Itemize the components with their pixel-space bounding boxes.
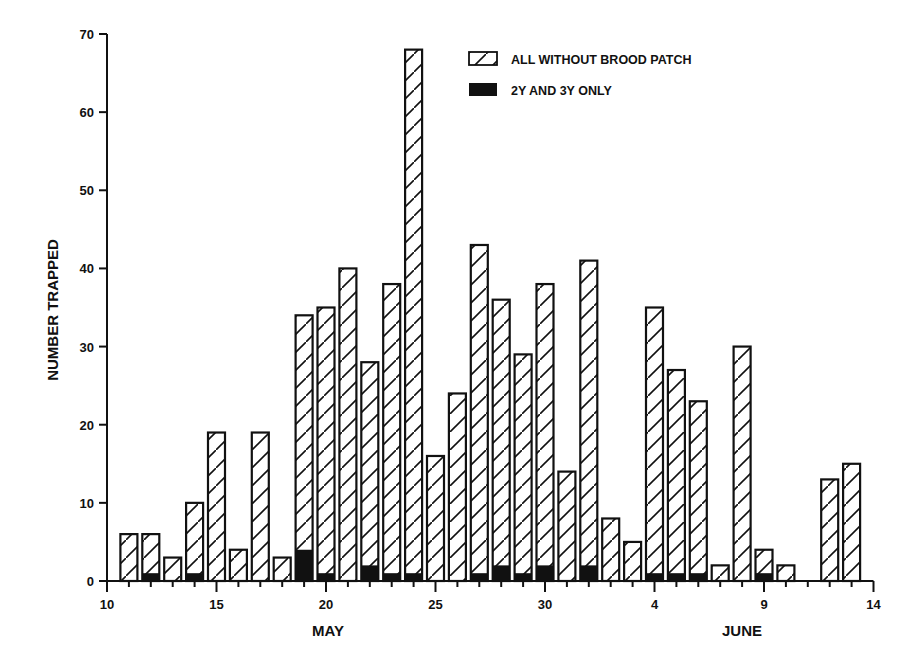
x-group-label-june: JUNE <box>722 622 762 639</box>
bar <box>668 370 685 581</box>
bar-all-without-brood-patch <box>580 261 597 581</box>
bar-all-without-brood-patch <box>120 534 137 581</box>
bar-all-without-brood-patch <box>602 518 619 581</box>
bar <box>120 534 137 581</box>
bar <box>756 550 773 581</box>
y-axis: 010203040506070 <box>80 27 107 589</box>
x-tick-label: 15 <box>209 597 223 612</box>
legend-label: 2Y AND 3Y ONLY <box>511 84 612 98</box>
bar <box>339 268 356 581</box>
bar <box>449 393 466 581</box>
y-tick-label: 0 <box>87 574 94 589</box>
bar-all-without-brood-patch <box>537 284 554 581</box>
bar <box>383 284 400 581</box>
bar-2y-3y-only <box>668 573 685 581</box>
bar-all-without-brood-patch <box>515 354 532 581</box>
bar-chart: 010203040506070 10152025304914 NUMBER TR… <box>0 0 910 669</box>
bar-all-without-brood-patch <box>624 542 641 581</box>
bars-group <box>120 50 860 581</box>
bar <box>405 50 422 581</box>
bar <box>274 558 291 581</box>
bar-2y-3y-only <box>493 565 510 581</box>
bar <box>252 433 269 581</box>
bar-all-without-brood-patch <box>712 565 729 581</box>
y-tick-label: 30 <box>80 340 94 355</box>
y-tick-label: 70 <box>80 27 94 42</box>
bar-2y-3y-only <box>383 573 400 581</box>
bar-all-without-brood-patch <box>777 565 794 581</box>
bar <box>208 433 225 581</box>
y-axis-title: NUMBER TRAPPED <box>44 239 61 381</box>
bar-2y-3y-only <box>646 573 663 581</box>
bar-all-without-brood-patch <box>339 268 356 581</box>
x-tick-label: 4 <box>651 597 659 612</box>
bar <box>690 401 707 581</box>
y-tick-label: 10 <box>80 496 94 511</box>
bar-all-without-brood-patch <box>296 315 313 581</box>
bar <box>318 308 335 582</box>
bar <box>427 456 444 581</box>
bar <box>296 315 313 581</box>
bar <box>230 550 247 581</box>
bar-all-without-brood-patch <box>252 433 269 581</box>
y-tick-label: 50 <box>80 183 94 198</box>
bar-all-without-brood-patch <box>668 370 685 581</box>
legend: ALL WITHOUT BROOD PATCH 2Y AND 3Y ONLY <box>469 52 692 98</box>
bar <box>515 354 532 581</box>
bar <box>164 558 181 581</box>
x-tick-label: 10 <box>100 597 114 612</box>
bar-all-without-brood-patch <box>405 50 422 581</box>
bar-2y-3y-only <box>296 550 313 581</box>
bar-2y-3y-only <box>471 573 488 581</box>
bar-2y-3y-only <box>318 573 335 581</box>
bar-all-without-brood-patch <box>164 558 181 581</box>
bar-2y-3y-only <box>142 573 159 581</box>
x-tick-label: 30 <box>538 597 552 612</box>
legend-item-2y-and-3y-only: 2Y AND 3Y ONLY <box>469 83 612 98</box>
y-tick-label: 20 <box>80 418 94 433</box>
bar-all-without-brood-patch <box>274 558 291 581</box>
bar-2y-3y-only <box>405 573 422 581</box>
bar-all-without-brood-patch <box>646 308 663 582</box>
bar-all-without-brood-patch <box>361 362 378 581</box>
bar-all-without-brood-patch <box>843 464 860 581</box>
bar <box>712 565 729 581</box>
bar-2y-3y-only <box>186 573 203 581</box>
x-tick-label: 20 <box>319 597 333 612</box>
bar-all-without-brood-patch <box>471 245 488 581</box>
bar <box>142 534 159 581</box>
bar-all-without-brood-patch <box>383 284 400 581</box>
x-group-label-may: MAY <box>312 622 344 639</box>
bar-2y-3y-only <box>580 565 597 581</box>
bar <box>580 261 597 581</box>
bar <box>493 300 510 581</box>
bar-2y-3y-only <box>756 573 773 581</box>
bar <box>361 362 378 581</box>
bar-all-without-brood-patch <box>690 401 707 581</box>
bar-all-without-brood-patch <box>208 433 225 581</box>
bar <box>602 518 619 581</box>
x-tick-label: 14 <box>866 597 881 612</box>
bar-2y-3y-only <box>361 565 378 581</box>
bar-all-without-brood-patch <box>449 393 466 581</box>
bar <box>471 245 488 581</box>
bar-all-without-brood-patch <box>427 456 444 581</box>
bar-2y-3y-only <box>537 565 554 581</box>
bar-all-without-brood-patch <box>734 347 751 581</box>
x-tick-label: 9 <box>760 597 767 612</box>
bar <box>843 464 860 581</box>
bar-all-without-brood-patch <box>821 479 838 581</box>
bar <box>624 542 641 581</box>
legend-label: ALL WITHOUT BROOD PATCH <box>511 53 692 67</box>
y-tick-label: 40 <box>80 261 94 276</box>
bar <box>558 472 575 581</box>
bar <box>186 503 203 581</box>
bar-2y-3y-only <box>690 573 707 581</box>
bar <box>777 565 794 581</box>
x-tick-label: 25 <box>428 597 442 612</box>
bar-all-without-brood-patch <box>493 300 510 581</box>
bar <box>821 479 838 581</box>
bar <box>646 308 663 582</box>
bar <box>537 284 554 581</box>
hatched-box-icon <box>469 52 497 65</box>
